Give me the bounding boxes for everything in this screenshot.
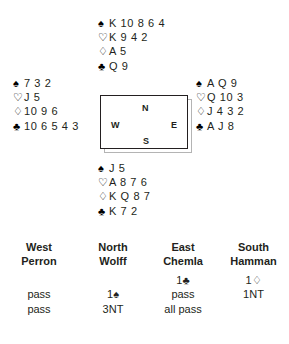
hand-east-ranks-hearts: Q 10 3 — [207, 91, 244, 103]
auction-table-container: West North East South Perron Wolff Cheml… — [0, 240, 289, 316]
hand-north-ranks-clubs: Q 9 — [109, 60, 129, 72]
bid-north-2: 1♠ — [78, 287, 148, 301]
auction-header-seat-north: North — [78, 240, 148, 254]
hand-south-ranks-clubs: K 7 2 — [109, 205, 138, 217]
bid-west-3: pass — [0, 302, 78, 316]
hand-east-suit-clubs: ♣A J 8 — [196, 119, 244, 133]
diamond-icon: ♢ — [98, 189, 109, 203]
hand-north-ranks-spades: K 10 8 6 4 — [109, 17, 165, 29]
hand-west-ranks-spades: 7 3 2 — [24, 77, 51, 89]
hand-east-suit-spades: ♠A Q 9 — [196, 76, 244, 90]
heart-icon: ♡ — [98, 175, 109, 189]
compass-label-east: E — [171, 121, 177, 130]
heart-icon: ♡ — [196, 90, 207, 104]
diamond-icon: ♢ — [98, 44, 109, 58]
diamond-icon: ♢ — [196, 104, 207, 118]
club-icon: ♣ — [98, 59, 109, 73]
club-icon: ♣ — [13, 119, 24, 133]
bid-east-1: 1♣ — [148, 273, 218, 287]
hand-south: ♠J 5 ♡A 8 7 6 ♢K Q 8 7 ♣K 7 2 — [98, 161, 151, 218]
heart-icon: ♡ — [98, 30, 109, 44]
compass-box: N W E S — [100, 95, 188, 149]
diamond-icon: ♢ — [13, 104, 24, 118]
auction-header-player-west: Perron — [0, 254, 78, 268]
auction-header-player-row: Perron Wolff Chemla Hamman — [0, 254, 289, 268]
auction-header-seat-east: East — [148, 240, 218, 254]
hand-east-ranks-spades: A Q 9 — [207, 77, 238, 89]
hand-north-suit-hearts: ♡K 9 4 2 — [98, 30, 165, 44]
spade-icon: ♠ — [98, 161, 109, 175]
hand-north-suit-spades: ♠K 10 8 6 4 — [98, 16, 165, 30]
auction-table: West North East South Perron Wolff Cheml… — [0, 240, 289, 316]
bridge-deal-diagram: ♠K 10 8 6 4 ♡K 9 4 2 ♢A 5 ♣Q 9 ♠7 3 2 ♡J… — [0, 0, 289, 235]
auction-header-seat-row: West North East South — [0, 240, 289, 254]
bid-west-1 — [0, 273, 78, 287]
club-icon: ♣ — [196, 119, 207, 133]
hand-west-suit-diamonds: ♢10 9 6 — [13, 104, 79, 118]
hand-south-suit-clubs: ♣K 7 2 — [98, 204, 151, 218]
hand-north-ranks-diamonds: A 5 — [109, 45, 127, 57]
hand-west-ranks-diamonds: 10 9 6 — [24, 105, 58, 117]
bid-south-1: 1♢ — [218, 273, 289, 287]
compass-label-south: S — [143, 137, 149, 146]
hand-north-ranks-hearts: K 9 4 2 — [109, 31, 148, 43]
hand-east-suit-diamonds: ♢J 4 3 2 — [196, 104, 244, 118]
hand-west: ♠7 3 2 ♡J 5 ♢10 9 6 ♣10 6 5 4 3 — [13, 76, 79, 133]
auction-row: pass 1♠ pass 1NT — [0, 287, 289, 301]
compass-box-frame: N W E S — [100, 95, 188, 149]
bid-south-2: 1NT — [218, 287, 289, 301]
auction-header-seat-south: South — [218, 240, 289, 254]
hand-east: ♠A Q 9 ♡Q 10 3 ♢J 4 3 2 ♣A J 8 — [196, 76, 244, 133]
auction-header-player-east: Chemla — [148, 254, 218, 268]
hand-south-suit-spades: ♠J 5 — [98, 161, 151, 175]
bid-north-1 — [78, 273, 148, 287]
hand-north-suit-clubs: ♣Q 9 — [98, 59, 165, 73]
auction-row: 1♣ 1♢ — [0, 273, 289, 287]
spade-icon: ♠ — [98, 16, 109, 30]
hand-west-suit-spades: ♠7 3 2 — [13, 76, 79, 90]
auction-header-seat-west: West — [0, 240, 78, 254]
heart-icon: ♡ — [13, 90, 24, 104]
hand-east-ranks-diamonds: J 4 3 2 — [207, 105, 244, 117]
hand-south-ranks-spades: J 5 — [109, 162, 125, 174]
hand-west-ranks-clubs: 10 6 5 4 3 — [24, 120, 79, 132]
compass-label-west: W — [111, 121, 120, 130]
hand-south-suit-hearts: ♡A 8 7 6 — [98, 175, 151, 189]
club-icon: ♣ — [98, 204, 109, 218]
hand-south-ranks-diamonds: K Q 8 7 — [109, 190, 151, 202]
bid-east-2: pass — [148, 287, 218, 301]
hand-south-ranks-hearts: A 8 7 6 — [109, 176, 147, 188]
auction-header-player-north: Wolff — [78, 254, 148, 268]
bid-north-3: 3NT — [78, 302, 148, 316]
auction-header-player-south: Hamman — [218, 254, 289, 268]
auction-row: pass 3NT all pass — [0, 302, 289, 316]
hand-south-suit-diamonds: ♢K Q 8 7 — [98, 189, 151, 203]
spade-icon: ♠ — [13, 76, 24, 90]
hand-north: ♠K 10 8 6 4 ♡K 9 4 2 ♢A 5 ♣Q 9 — [98, 16, 165, 73]
spade-icon: ♠ — [196, 76, 207, 90]
hand-north-suit-diamonds: ♢A 5 — [98, 44, 165, 58]
hand-east-ranks-clubs: A J 8 — [207, 120, 234, 132]
bid-east-3: all pass — [148, 302, 218, 316]
bid-west-2: pass — [0, 287, 78, 301]
hand-west-suit-clubs: ♣10 6 5 4 3 — [13, 119, 79, 133]
compass-label-north: N — [142, 104, 149, 113]
hand-west-ranks-hearts: J 5 — [24, 91, 40, 103]
hand-west-suit-hearts: ♡J 5 — [13, 90, 79, 104]
hand-east-suit-hearts: ♡Q 10 3 — [196, 90, 244, 104]
bid-south-3 — [218, 302, 289, 316]
